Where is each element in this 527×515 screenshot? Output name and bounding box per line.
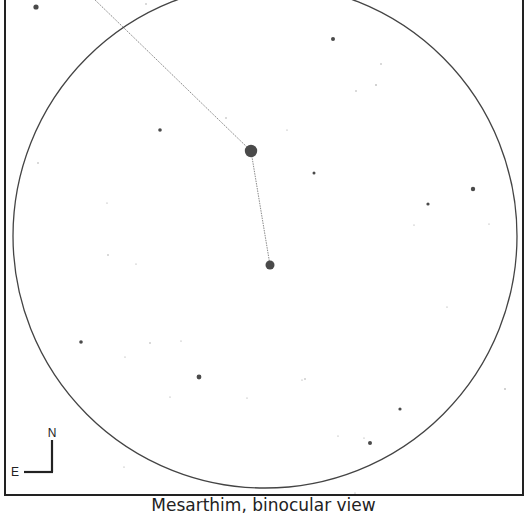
asterism-line <box>93 0 251 151</box>
star <box>301 379 302 380</box>
star <box>380 63 381 64</box>
star <box>413 224 414 225</box>
star <box>286 129 287 130</box>
star <box>180 340 181 341</box>
chart-frame <box>5 0 523 495</box>
bright-star-primary <box>245 145 257 157</box>
star <box>107 254 108 255</box>
star <box>363 437 364 438</box>
star <box>368 441 372 445</box>
star <box>354 492 355 493</box>
asterism-line <box>251 151 270 265</box>
star <box>488 223 489 224</box>
star <box>123 466 124 467</box>
star <box>197 375 202 380</box>
north-label: N <box>48 426 57 440</box>
star <box>33 4 38 9</box>
east-label: E <box>11 465 19 479</box>
star <box>158 128 162 132</box>
star <box>37 162 38 163</box>
star <box>375 84 377 86</box>
star <box>446 306 447 307</box>
star <box>145 3 146 4</box>
star <box>246 397 247 398</box>
star <box>169 396 170 397</box>
star <box>225 117 226 118</box>
star <box>106 202 107 203</box>
compass-rose: N E <box>11 426 56 479</box>
star-field <box>33 3 505 493</box>
chart-caption: Mesarthim, binocular view <box>0 495 527 515</box>
star <box>337 435 338 436</box>
star <box>149 342 150 343</box>
star <box>355 90 356 91</box>
star <box>426 202 429 205</box>
star <box>504 388 506 390</box>
star <box>398 407 401 410</box>
star <box>471 187 475 191</box>
star <box>331 37 335 41</box>
star <box>79 340 83 344</box>
bright-star-secondary <box>266 261 275 270</box>
star <box>313 172 316 175</box>
binocular-field-circle <box>13 0 517 488</box>
star <box>304 378 305 379</box>
star <box>124 356 125 357</box>
star <box>135 263 136 264</box>
asterism-lines <box>93 0 270 265</box>
